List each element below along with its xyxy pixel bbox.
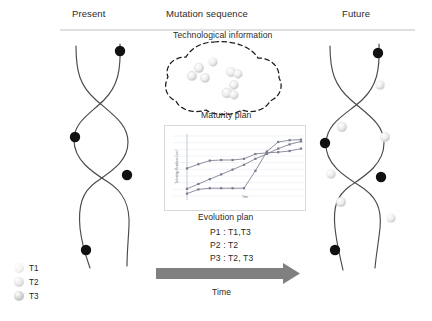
chart-series-marker bbox=[232, 187, 234, 189]
header-mutation-sequence: Mutation sequence bbox=[166, 9, 248, 19]
cloud-sphere bbox=[208, 57, 217, 66]
chart-series-marker bbox=[232, 169, 234, 171]
chart-series-marker bbox=[186, 167, 188, 169]
header-future: Future bbox=[342, 9, 370, 19]
chart-series-marker bbox=[277, 151, 279, 153]
cloud-sphere bbox=[194, 63, 204, 73]
present-strand-b bbox=[76, 46, 128, 268]
cloud-sphere bbox=[230, 81, 239, 90]
legend-label: T3 bbox=[29, 292, 39, 301]
future-node-sphere bbox=[337, 122, 347, 132]
chart-series-marker bbox=[209, 178, 211, 180]
chart-series-marker bbox=[289, 150, 291, 152]
chart-series-marker bbox=[220, 173, 222, 175]
future-strands bbox=[326, 44, 384, 270]
legend-sphere-icon bbox=[14, 291, 24, 301]
chart-series-marker bbox=[232, 159, 234, 161]
chart-series-marker bbox=[254, 153, 256, 155]
chart-series-marker bbox=[243, 158, 245, 160]
chart-series-marker bbox=[186, 188, 188, 190]
future-node-sphere bbox=[375, 80, 385, 90]
chart-series-group bbox=[186, 139, 302, 195]
future-node-black bbox=[330, 245, 340, 255]
cloud-sphere bbox=[230, 91, 239, 100]
cloud-spheres bbox=[187, 57, 242, 99]
chart-series-line bbox=[187, 140, 301, 194]
chart-series-marker bbox=[243, 187, 245, 189]
cloud-sphere bbox=[200, 73, 209, 82]
legend: T1T2T3 bbox=[14, 261, 39, 303]
time-arrow bbox=[156, 263, 300, 284]
legend-sphere-icon bbox=[14, 263, 24, 273]
chart-series-marker bbox=[186, 193, 188, 195]
technology-cloud bbox=[166, 42, 282, 115]
present-strands bbox=[74, 44, 129, 268]
label-evolution-plan: Evolution plan bbox=[198, 213, 253, 222]
future-node-sphere bbox=[336, 197, 346, 207]
label-maturity-plan: Maturity plan bbox=[201, 111, 252, 120]
cloud-sphere bbox=[187, 71, 196, 80]
legend-label: T2 bbox=[29, 278, 39, 287]
chart-series-marker bbox=[209, 160, 211, 162]
future-node-black bbox=[376, 172, 386, 182]
chart-series-marker bbox=[254, 158, 256, 160]
chart-series-marker bbox=[197, 183, 199, 185]
chart-series-marker bbox=[289, 143, 291, 145]
chart-xlabel: Time bbox=[242, 195, 248, 199]
present-node-black bbox=[115, 46, 125, 56]
chart-series-marker bbox=[277, 148, 279, 150]
maturity-plan-chart: Technology Readiness Level Time bbox=[164, 125, 306, 211]
chart-series-marker bbox=[254, 170, 256, 172]
legend-item-t3: T3 bbox=[14, 289, 39, 303]
chart-series-marker bbox=[243, 164, 245, 166]
label-technological-information: Technological information bbox=[173, 31, 272, 40]
legend-sphere-icon bbox=[14, 277, 24, 287]
present-strand-a bbox=[74, 44, 129, 266]
evolution-plan-line-3: P3 : T2, T3 bbox=[210, 254, 253, 263]
chart-ylabel: Technology Readiness Level bbox=[175, 150, 179, 183]
present-node-black bbox=[70, 132, 80, 142]
maturity-chart-svg: Technology Readiness Level Time bbox=[165, 126, 307, 212]
future-node-sphere bbox=[380, 132, 390, 142]
legend-item-t2: T2 bbox=[14, 275, 39, 289]
present-node-black bbox=[122, 170, 132, 180]
chart-series-marker bbox=[220, 187, 222, 189]
present-node-black bbox=[81, 245, 91, 255]
evolution-plan-line-2: P2 : T2 bbox=[210, 241, 238, 250]
future-node-black bbox=[320, 138, 330, 148]
legend-label: T1 bbox=[29, 264, 39, 273]
chart-series-marker bbox=[197, 163, 199, 165]
header-present: Present bbox=[72, 9, 105, 19]
diagram-canvas: Present Mutation sequence Future Technol… bbox=[0, 0, 432, 321]
chart-series-marker bbox=[209, 187, 211, 189]
chart-series-marker bbox=[277, 141, 279, 143]
chart-series-marker bbox=[300, 139, 302, 141]
legend-item-t1: T1 bbox=[14, 261, 39, 275]
future-node-sphere bbox=[386, 213, 396, 223]
chart-series-marker bbox=[289, 139, 291, 141]
label-time: Time bbox=[212, 288, 231, 297]
chart-series-marker bbox=[197, 188, 199, 190]
future-node-sphere bbox=[326, 169, 336, 179]
chart-series-marker bbox=[266, 151, 268, 153]
chart-series-marker bbox=[220, 159, 222, 161]
chart-series-marker bbox=[300, 148, 302, 150]
cloud-sphere bbox=[234, 70, 243, 79]
future-node-black bbox=[373, 48, 383, 58]
evolution-plan-line-1: P1 : T1,T3 bbox=[210, 228, 251, 237]
future-nodes bbox=[320, 48, 396, 255]
